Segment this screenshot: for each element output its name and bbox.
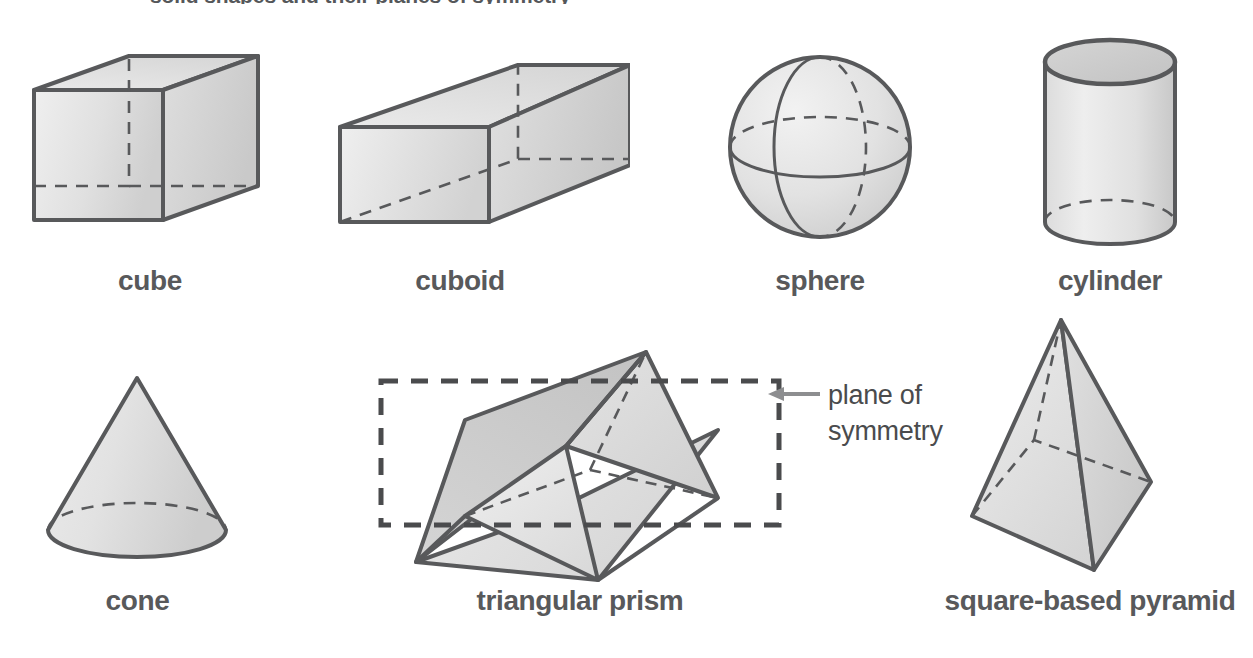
cube-icon xyxy=(20,30,280,260)
label-cylinder: cylinder xyxy=(1000,265,1220,297)
figure-cube xyxy=(20,30,280,260)
cuboid-front-face xyxy=(340,127,489,222)
cylinder-body xyxy=(1045,62,1175,244)
cube-front-face xyxy=(34,90,163,220)
annotation-line-1: plane of xyxy=(828,378,922,414)
diagram-page: solid shapes and their planes of symmetr… xyxy=(0,0,1253,658)
plane-of-symmetry-rect xyxy=(378,378,782,528)
label-sphere: sphere xyxy=(700,265,940,297)
page-heading-clipped: solid shapes and their planes of symmetr… xyxy=(150,0,1110,4)
sphere-outline xyxy=(730,57,910,237)
cylinder-icon xyxy=(1040,36,1180,251)
plane-of-symmetry-outline xyxy=(381,381,779,525)
figure-cuboid xyxy=(290,55,630,260)
annotation-line-2: symmetry xyxy=(828,414,943,450)
square-based-pyramid-icon xyxy=(960,312,1165,582)
cylinder-top-ellipse xyxy=(1045,40,1175,84)
label-cube: cube xyxy=(20,265,280,297)
label-cuboid: cuboid xyxy=(330,265,590,297)
figure-square-based-pyramid xyxy=(960,312,1165,582)
cuboid-icon xyxy=(290,55,630,260)
label-square-based-pyramid: square-based pyramid xyxy=(930,585,1250,617)
sphere-icon xyxy=(725,52,915,242)
label-triangular-prism: triangular prism xyxy=(400,585,760,617)
label-cone: cone xyxy=(30,585,245,617)
arrow-head xyxy=(768,387,784,401)
figure-cone xyxy=(42,372,232,567)
left-arrow-icon xyxy=(766,382,822,406)
cone-body xyxy=(48,378,226,557)
figure-sphere xyxy=(725,52,915,242)
figure-cylinder xyxy=(1040,36,1180,251)
cone-icon xyxy=(42,372,232,567)
